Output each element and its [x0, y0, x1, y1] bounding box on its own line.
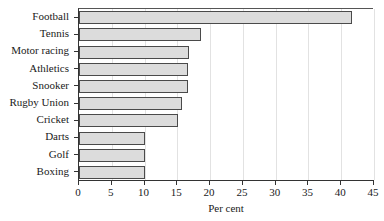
y-axis-tick-label: Tennis: [0, 25, 74, 42]
x-axis-tick: [373, 181, 374, 185]
y-axis-tick-label: Darts: [0, 128, 74, 145]
bar-row: [79, 114, 374, 127]
y-axis-label-text: Athletics: [29, 63, 69, 74]
x-axis-tick: [242, 181, 243, 185]
y-axis-tick-label: Football: [0, 8, 74, 25]
bar[interactable]: [79, 80, 188, 93]
y-axis-label-text: Boxing: [37, 166, 69, 177]
x-axis-tick: [176, 181, 177, 185]
x-axis-tick-label: 35: [292, 186, 322, 198]
x-axis-line: [78, 180, 374, 181]
gridline: [374, 9, 375, 180]
bar-row: [79, 28, 374, 41]
bar[interactable]: [79, 166, 145, 179]
y-axis-tick: [74, 103, 78, 104]
bar[interactable]: [79, 46, 189, 59]
x-axis-tick: [209, 181, 210, 185]
x-axis-tick: [307, 181, 308, 185]
y-axis-tick: [74, 17, 78, 18]
y-axis-label-text: Cricket: [37, 114, 69, 125]
bar-row: [79, 149, 374, 162]
y-axis-tick-label: Golf: [0, 146, 74, 163]
y-axis-tick-label: Snooker: [0, 77, 74, 94]
bar-row: [79, 80, 374, 93]
bar-row: [79, 11, 374, 24]
y-axis-label-text: Darts: [45, 131, 69, 142]
x-axis-tick: [340, 181, 341, 185]
x-axis-tick-label: 40: [325, 186, 355, 198]
x-axis-tick-label: 10: [129, 186, 159, 198]
y-axis-tick: [74, 154, 78, 155]
y-axis-tick-label: Athletics: [0, 60, 74, 77]
y-axis-tick-label: Rugby Union: [0, 94, 74, 111]
x-axis-tick-label: 15: [161, 186, 191, 198]
x-axis-tick-label: 20: [194, 186, 224, 198]
x-axis-tick: [78, 181, 79, 185]
y-axis-tick: [74, 85, 78, 86]
x-axis-tick-label: 45: [358, 186, 384, 198]
y-axis-labels: Football Tennis Motor racing Athletics S…: [0, 8, 74, 180]
x-axis-tick-label: 5: [96, 186, 126, 198]
x-axis-tick: [111, 181, 112, 185]
y-axis-tick: [74, 34, 78, 35]
y-axis-tick-label: Motor racing: [0, 42, 74, 59]
x-axis-tick: [144, 181, 145, 185]
bar-chart: Football Tennis Motor racing Athletics S…: [0, 0, 384, 221]
bar[interactable]: [79, 132, 145, 145]
bar[interactable]: [79, 63, 188, 76]
bar-row: [79, 97, 374, 110]
x-axis-tick-label: 30: [260, 186, 290, 198]
bar[interactable]: [79, 11, 352, 24]
bar[interactable]: [79, 28, 201, 41]
y-axis-tick: [74, 68, 78, 69]
y-axis-label-text: Football: [32, 11, 69, 22]
y-axis-tick: [74, 120, 78, 121]
y-axis-tick: [74, 51, 78, 52]
y-axis-tick-label: Boxing: [0, 163, 74, 180]
y-axis-label-text: Snooker: [32, 80, 69, 91]
bar[interactable]: [79, 97, 182, 110]
y-axis-tick-label: Cricket: [0, 111, 74, 128]
y-axis-label-text: Rugby Union: [9, 97, 69, 108]
y-axis-tick: [74, 137, 78, 138]
bar-row: [79, 132, 374, 145]
bar-row: [79, 46, 374, 59]
bar[interactable]: [79, 114, 178, 127]
bar[interactable]: [79, 149, 145, 162]
x-axis-tick-label: 25: [227, 186, 257, 198]
y-axis-label-text: Tennis: [40, 28, 69, 39]
bar-row: [79, 166, 374, 179]
plot-area: [78, 8, 373, 180]
bar-row: [79, 63, 374, 76]
x-axis-tick-label: 0: [63, 186, 93, 198]
plot-inner: [79, 9, 373, 180]
y-axis-label-text: Motor racing: [11, 45, 69, 56]
x-axis-title: Per cent: [78, 202, 374, 214]
y-axis-tick: [74, 171, 78, 172]
y-axis-label-text: Golf: [49, 149, 69, 160]
x-axis-tick: [275, 181, 276, 185]
